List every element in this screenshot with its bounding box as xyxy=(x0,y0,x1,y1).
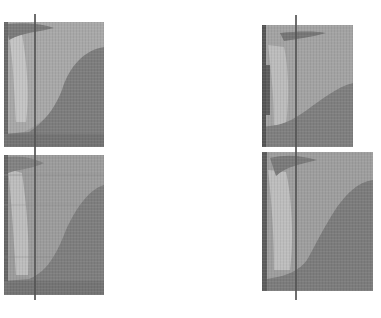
image-panel-top-right xyxy=(262,25,353,147)
vertical-marker-line-left xyxy=(34,14,36,300)
grayscale-field-top-right xyxy=(262,25,353,147)
image-panel-bottom-left xyxy=(4,155,104,295)
grayscale-field-bottom-left xyxy=(4,155,104,295)
grayscale-field-top-left xyxy=(4,22,104,147)
image-panel-bottom-right xyxy=(262,152,373,291)
grayscale-field-bottom-right xyxy=(262,152,373,291)
image-panel-top-left xyxy=(4,22,104,147)
vertical-marker-line-right xyxy=(295,15,297,300)
